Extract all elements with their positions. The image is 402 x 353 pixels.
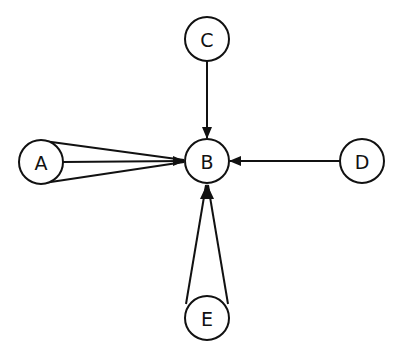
- graph-canvas: A B C D E: [0, 0, 402, 353]
- edge-e-b-right: [208, 185, 228, 304]
- edge-a-b-lower: [44, 162, 184, 183]
- node-e-label: E: [201, 308, 213, 330]
- node-a: A: [19, 140, 63, 184]
- edge-a-b-upper: [44, 141, 184, 160]
- node-d-label: D: [355, 151, 370, 173]
- node-c: C: [185, 17, 229, 61]
- node-b: B: [185, 139, 229, 183]
- node-a-label: A: [35, 152, 48, 174]
- edge-a-to-b: [44, 141, 184, 183]
- edge-a-b-middle: [63, 161, 184, 162]
- edge-e-to-b: [186, 184, 228, 304]
- edge-e-b-left: [186, 185, 206, 304]
- node-e: E: [185, 296, 229, 340]
- node-b-label: B: [200, 151, 213, 173]
- arrowhead-e-b: [200, 184, 214, 199]
- node-c-label: C: [200, 29, 213, 51]
- node-d: D: [340, 139, 384, 183]
